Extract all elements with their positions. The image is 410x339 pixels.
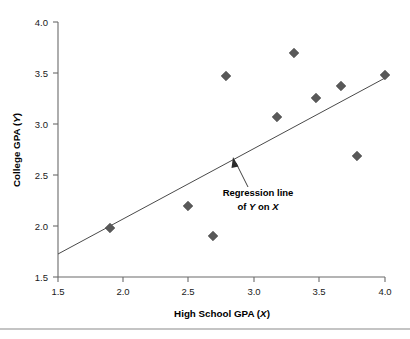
y-tick-label-4: 2.0 bbox=[35, 221, 48, 232]
data-point bbox=[336, 81, 346, 91]
annotation-line-2: of Y on X bbox=[237, 201, 279, 212]
x-tick-label-3: 3.0 bbox=[247, 286, 260, 297]
y-tick-label-0: 4.0 bbox=[35, 17, 48, 28]
data-point bbox=[221, 71, 231, 81]
figure-container: 4.0 3.5 3.0 2.5 2.0 1.5 1.5 2.0 2.5 3.0 … bbox=[0, 0, 410, 339]
x-tick-labels: 1.5 2.0 2.5 3.0 3.5 4.0 bbox=[51, 286, 391, 297]
x-axis-title: High School GPA (X) bbox=[174, 308, 270, 319]
data-point bbox=[208, 231, 218, 241]
y-tick-label-2: 3.0 bbox=[35, 119, 48, 130]
x-tick-label-5: 4.0 bbox=[378, 286, 391, 297]
x-axis-title-pre: High School GPA ( bbox=[174, 308, 261, 319]
data-point bbox=[183, 201, 193, 211]
x-tick-label-4: 3.5 bbox=[312, 286, 325, 297]
y-tick-label-3: 2.5 bbox=[35, 170, 48, 181]
x-tick-label-0: 1.5 bbox=[51, 286, 64, 297]
y-tick-labels: 4.0 3.5 3.0 2.5 2.0 1.5 bbox=[35, 17, 48, 283]
scatter-plot: 4.0 3.5 3.0 2.5 2.0 1.5 1.5 2.0 2.5 3.0 … bbox=[0, 0, 410, 339]
data-point bbox=[352, 151, 362, 161]
y-axis-title-post: ) bbox=[11, 113, 22, 116]
x-axis-title-post: ) bbox=[267, 308, 270, 319]
axes-group bbox=[58, 22, 385, 277]
y-tick-label-5: 1.5 bbox=[35, 272, 48, 283]
annotation-text-group: Regression line of Y on X bbox=[223, 187, 294, 212]
y-tick-marks bbox=[53, 22, 58, 277]
annotation-leader bbox=[232, 157, 249, 187]
annotation-line-2-var-x: X bbox=[271, 201, 279, 212]
annotation-line-2-mid: on bbox=[255, 201, 272, 212]
x-tick-label-2: 2.5 bbox=[181, 286, 194, 297]
y-axis-title-pre: College GPA ( bbox=[11, 122, 22, 187]
y-axis-title: College GPA (Y) bbox=[11, 113, 22, 187]
data-point bbox=[380, 70, 390, 80]
y-tick-label-1: 3.5 bbox=[35, 68, 48, 79]
annotation-line-1: Regression line bbox=[223, 187, 294, 198]
data-point bbox=[289, 48, 299, 58]
x-tick-label-1: 2.0 bbox=[116, 286, 129, 297]
annotation-line-2-pre: of bbox=[237, 201, 249, 212]
x-tick-marks bbox=[58, 277, 385, 282]
data-point bbox=[311, 93, 321, 103]
data-point bbox=[272, 112, 282, 122]
